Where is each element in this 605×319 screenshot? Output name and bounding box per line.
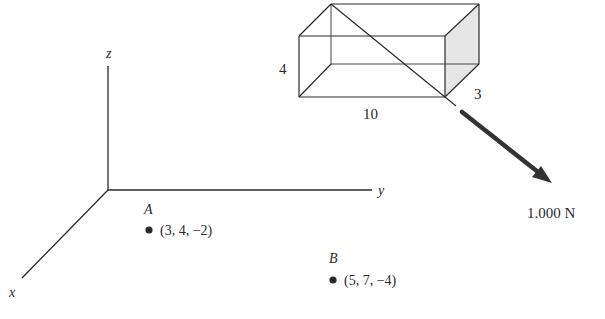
box-depth-bottom-left <box>299 64 331 97</box>
z-axis-label: z <box>105 46 112 61</box>
point-b-name: B <box>329 251 338 266</box>
box-right-face-shade <box>445 4 479 97</box>
box-height-label: 4 <box>279 61 287 77</box>
force-magnitude-label: 1.000 N <box>527 205 576 221</box>
rectangular-box: 4 10 3 <box>279 4 482 122</box>
y-axis-label: y <box>376 183 385 198</box>
x-axis-label: x <box>8 285 16 300</box>
point-b-dot <box>329 276 336 283</box>
diagram-svg: z y x A (3, 4, −2) B (5, 7, −4) <box>0 0 605 319</box>
box-depth-label: 3 <box>474 86 482 102</box>
x-axis <box>22 190 108 278</box>
diagram-canvas: z y x A (3, 4, −2) B (5, 7, −4) <box>0 0 605 319</box>
box-space-diagonal <box>331 4 456 106</box>
force-vector: 1.000 N <box>462 112 576 221</box>
point-a-name: A <box>143 202 153 217</box>
box-depth-top-left <box>299 4 331 36</box>
force-arrow-shaft <box>462 112 538 172</box>
point-b: B (5, 7, −4) <box>329 251 397 289</box>
box-length-label: 10 <box>363 106 378 122</box>
point-b-coords: (5, 7, −4) <box>344 273 397 289</box>
point-a-coords: (3, 4, −2) <box>160 223 213 239</box>
point-a-dot <box>145 226 152 233</box>
coordinate-axes <box>22 66 372 278</box>
point-a: A (3, 4, −2) <box>143 202 213 239</box>
